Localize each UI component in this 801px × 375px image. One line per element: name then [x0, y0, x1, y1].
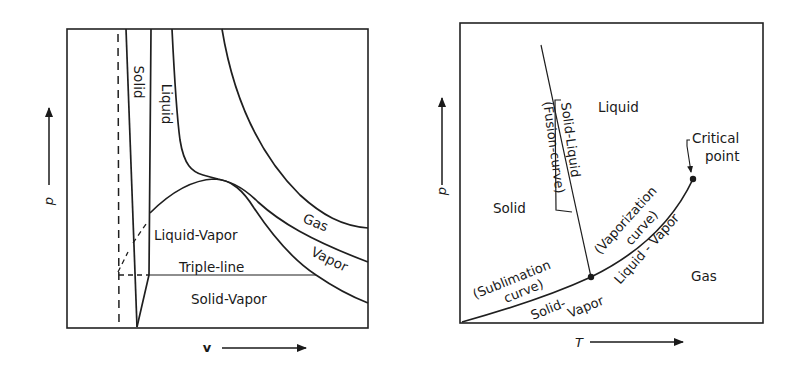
pt-label-solid: Solid	[493, 200, 526, 216]
pv-dashed-isochore	[118, 34, 119, 326]
pt-label-sublimation-name2: Vapor	[566, 293, 607, 321]
pv-gas-isotherm	[222, 29, 368, 228]
pt-label-critical-line1: Critical	[692, 130, 739, 146]
pv-liquid-boundary	[172, 29, 218, 179]
pv-label-gas: Gas	[301, 210, 331, 234]
pt-label-liquid: Liquid	[598, 99, 639, 115]
pt-critical-point	[690, 176, 696, 182]
pt-y-axis-label: p	[434, 187, 449, 196]
pv-label-triple-line: Triple-line	[178, 259, 244, 275]
pv-vapor-boundary	[214, 179, 368, 262]
pv-y-axis-label: p	[41, 197, 56, 206]
pv-label-solid: Solid	[131, 66, 147, 99]
pv-label-liquid: Liquid	[159, 84, 175, 125]
pt-critical-point-pointer	[687, 140, 691, 172]
pt-triple-point	[588, 274, 594, 280]
pv-diagram: p v Solid Liquid Liquid-Vapor Triple-lin…	[41, 29, 368, 355]
pv-x-axis-label: v	[203, 340, 212, 355]
pt-label-gas: Gas	[691, 268, 717, 284]
pt-diagram: p T Liquid Solid Gas Solid-Liquid (Fusio…	[434, 23, 763, 350]
pv-dash-mark-1	[133, 224, 146, 243]
pt-x-axis-label: T	[575, 335, 584, 350]
pv-label-liquid-vapor: Liquid-Vapor	[154, 227, 238, 243]
pt-label-critical-line2: point	[705, 148, 739, 164]
pv-label-vapor: Vapor	[309, 243, 351, 275]
pv-label-solid-vapor: Solid-Vapor	[191, 291, 267, 307]
